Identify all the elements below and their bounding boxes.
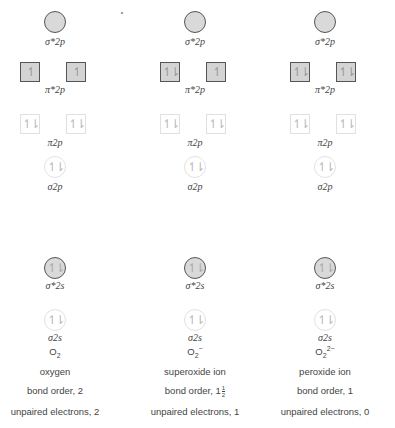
pi-2p-label: π2p [130,137,260,148]
formula-charge: − [199,345,203,352]
pi-2p-orbital-2: ↿⇂ [66,114,86,134]
sigma-2p-orbital: ↿⇂ [44,156,66,178]
sigma-star-2s-orbital: ↿⇂ [314,257,336,279]
spin-arrows-icon: ↿⇂ [67,115,85,133]
pi-star-2p-orbital-2: ↿ [66,62,86,82]
bond-order-label: bond order, 1 [297,385,353,396]
sigma-2s-label: σ2s [130,332,260,343]
bond-order: bond order, 112 [130,385,260,398]
pi-2p-label: π2p [260,137,390,148]
bond-order-fraction: 12 [222,385,225,398]
sigma-2s-label: σ2s [260,332,390,343]
sigma-star-2p-label: σ*2p [0,36,120,47]
species-formula: O2− [130,345,260,359]
pi-star-2p-orbital-2: ↿⇂ [336,62,356,82]
spin-arrows-icon [315,12,335,32]
spin-arrows-icon: ↿⇂ [337,115,355,133]
sigma-2p-orbital: ↿⇂ [184,156,206,178]
sigma-2p-orbital: ↿⇂ [314,156,336,178]
spin-arrows-icon [45,12,65,32]
bond-order: bond order, 1 [260,385,390,396]
species-name: peroxide ion [260,366,390,377]
species-name: oxygen [0,366,120,377]
species-name: superoxide ion [130,366,260,377]
pi-star-2p-orbital-2: ↿ [206,62,226,82]
pi-star-2p-label: π*2p [260,84,390,95]
unpaired-electrons: unpaired electrons, 0 [260,406,390,417]
spin-arrows-icon: ↿⇂ [185,157,205,177]
sigma-star-2p-label: σ*2p [260,36,390,47]
spin-arrows-icon: ↿⇂ [315,258,335,278]
formula-subscript: 2 [323,352,327,359]
spin-arrows-icon: ↿⇂ [21,115,39,133]
formula-base: O [187,346,194,357]
unpaired-electrons: unpaired electrons, 1 [130,406,260,417]
pi-2p-orbital-2: ↿⇂ [206,114,226,134]
pi-star-2p-orbital-1: ↿⇂ [290,62,310,82]
sigma-2p-label: σ2p [130,181,260,192]
unpaired-electrons: unpaired electrons, 2 [0,406,120,417]
spin-arrows-icon: ↿ [21,63,39,81]
column-peroxide: σ*2p ↿⇂ ↿⇂ π*2p ↿⇂ ↿⇂ π2p ↿⇂ σ2p ↿⇂ σ*2s… [260,0,390,428]
sigma-2p-label: σ2p [0,181,120,192]
spin-arrows-icon: ↿⇂ [207,115,225,133]
sigma-2s-orbital: ↿⇂ [184,309,206,331]
sigma-2s-orbital: ↿⇂ [314,309,336,331]
pi-star-2p-label: π*2p [130,84,260,95]
mark [121,12,124,15]
pi-star-2p-orbital-1: ↿⇂ [160,62,180,82]
pi-2p-orbital-2: ↿⇂ [336,114,356,134]
sigma-star-2s-label: σ*2s [130,280,260,291]
spin-arrows-icon: ↿⇂ [185,258,205,278]
formula-subscript: 2 [195,352,199,359]
spin-arrows-icon: ↿⇂ [45,258,65,278]
spin-arrows-icon: ↿⇂ [337,63,355,81]
spin-arrows-icon: ↿⇂ [161,63,179,81]
species-formula: O2 [0,345,120,359]
spin-arrows-icon: ↿⇂ [45,157,65,177]
pi-2p-orbital-1: ↿⇂ [160,114,180,134]
species-formula: O22− [260,345,390,359]
formula-base: O [49,346,56,357]
formula-charge: 2− [327,345,335,352]
sigma-star-2p-orbital [184,11,206,33]
pi-star-2p-orbital-1: ↿ [20,62,40,82]
spin-arrows-icon: ↿⇂ [45,310,65,330]
sigma-star-2p-label: σ*2p [130,36,260,47]
spin-arrows-icon: ↿⇂ [291,63,309,81]
sigma-star-2p-orbital [314,11,336,33]
bond-order-label: bond order, 2 [27,385,83,396]
column-oxygen: σ*2p ↿ ↿ π*2p ↿⇂ ↿⇂ π2p ↿⇂ σ2p ↿⇂ σ*2s ↿… [0,0,120,428]
pi-2p-orbital-1: ↿⇂ [290,114,310,134]
pi-2p-orbital-1: ↿⇂ [20,114,40,134]
formula-subscript: 2 [57,352,61,359]
column-superoxide: σ*2p ↿⇂ ↿ π*2p ↿⇂ ↿⇂ π2p ↿⇂ σ2p ↿⇂ σ*2s … [130,0,260,428]
spin-arrows-icon: ↿⇂ [161,115,179,133]
bond-order: bond order, 2 [0,385,120,396]
spin-arrows-icon: ↿ [67,63,85,81]
bond-order-label: bond order, 1 [165,385,221,396]
sigma-2s-label: σ2s [0,332,120,343]
sigma-star-2p-orbital [44,11,66,33]
formula-base: O [315,346,322,357]
pi-star-2p-label: π*2p [0,84,120,95]
sigma-2s-orbital: ↿⇂ [44,309,66,331]
spin-arrows-icon: ↿⇂ [291,115,309,133]
pi-2p-label: π2p [0,137,120,148]
spin-arrows-icon: ↿⇂ [315,157,335,177]
sigma-star-2s-label: σ*2s [0,280,120,291]
spin-arrows-icon: ↿ [207,63,225,81]
sigma-star-2s-label: σ*2s [260,280,390,291]
spin-arrows-icon: ↿⇂ [185,310,205,330]
sigma-2p-label: σ2p [260,181,390,192]
sigma-star-2s-orbital: ↿⇂ [184,257,206,279]
spin-arrows-icon: ↿⇂ [315,310,335,330]
spin-arrows-icon [185,12,205,32]
sigma-star-2s-orbital: ↿⇂ [44,257,66,279]
